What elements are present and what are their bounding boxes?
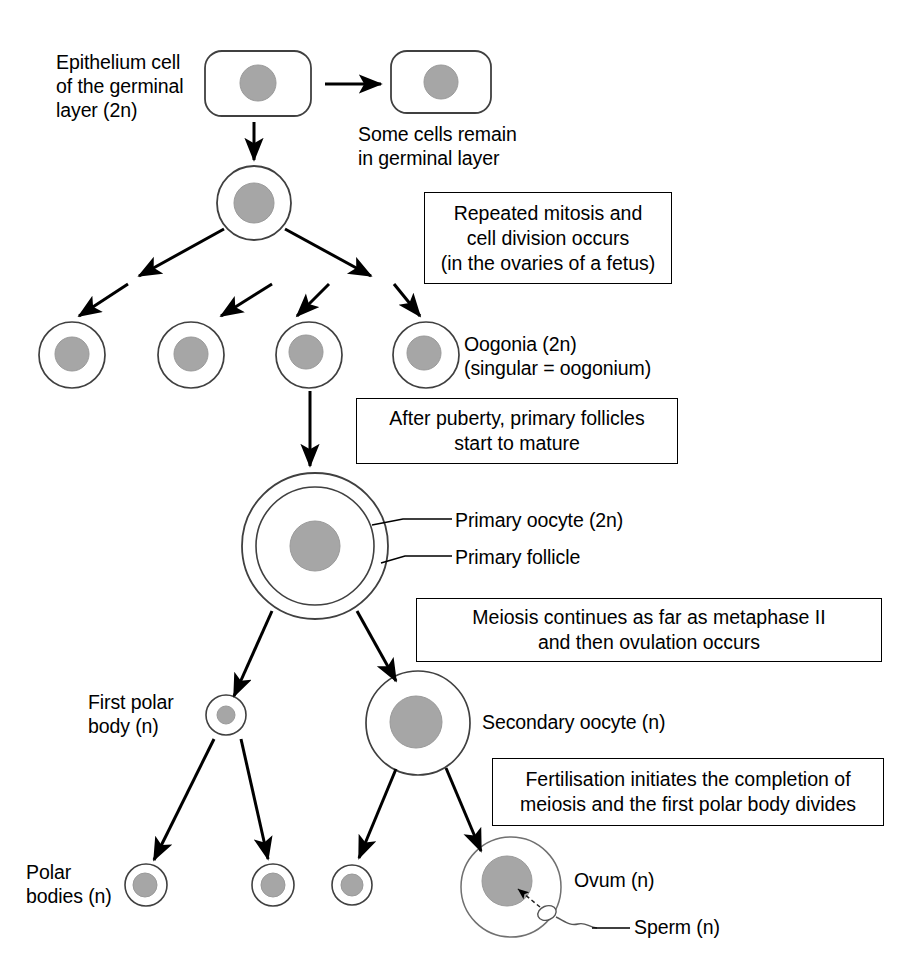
- nucleus: [234, 183, 274, 223]
- nucleus: [55, 337, 89, 371]
- cell-oogonium-4: [393, 322, 459, 388]
- nucleus: [290, 521, 340, 571]
- nucleus: [289, 335, 323, 369]
- label-primary-follicle: Primary follicle: [455, 545, 580, 569]
- nucleus: [174, 337, 208, 371]
- arrow-to-oogonium-1: [79, 284, 128, 316]
- cell-epithelium-left: [205, 51, 311, 116]
- cell-primary-oocyte: [242, 473, 388, 619]
- note-fertilisation: Fertilisation initiates the completion o…: [492, 758, 884, 826]
- note-meiosis-metaphase: Meiosis continues as far as metaphase II…: [416, 598, 882, 662]
- arrow-to-polar-body-3: [359, 769, 396, 858]
- label-epithelium-cell: Epithelium cell of the germinal layer (2…: [56, 50, 184, 122]
- nucleus: [407, 336, 441, 370]
- cell-oogonium-3: [276, 322, 342, 388]
- cell-first-polar-body: [206, 695, 246, 735]
- nucleus: [424, 65, 458, 99]
- note-repeated-mitosis: Repeated mitosis and cell division occur…: [424, 192, 672, 284]
- nucleus: [482, 856, 532, 906]
- arrow-stem-to-left: [139, 229, 224, 276]
- cell-ovum: [461, 837, 561, 937]
- label-oogonia: Oogonia (2n) (singular = oogonium): [464, 332, 651, 380]
- nucleus: [133, 873, 157, 897]
- arrow-to-polar-body-1: [154, 739, 214, 860]
- cell-polar-body-3: [332, 865, 372, 905]
- arrow-stem-to-right: [285, 229, 371, 276]
- cell-polar-body-1: [125, 864, 167, 906]
- label-some-cells-remain: Some cells remain in germinal layer: [358, 122, 517, 170]
- cell-polar-body-2: [252, 864, 294, 906]
- nucleus: [341, 874, 363, 896]
- cell-stem: [217, 166, 291, 240]
- nucleus: [240, 65, 276, 101]
- sperm-tail: [556, 917, 597, 928]
- leader-primary-follicle: [381, 556, 452, 563]
- label-first-polar-body: First polar body (n): [88, 690, 174, 738]
- arrow-to-oogonium-3: [297, 284, 329, 316]
- arrow-to-oogonium-2: [221, 284, 272, 316]
- arrow-to-secondary-oocyte: [357, 611, 396, 681]
- cell-oogonium-2: [158, 322, 224, 388]
- cell-oogonium-1: [39, 322, 105, 388]
- arrow-to-first-polar-body: [234, 611, 272, 696]
- nucleus: [217, 706, 235, 724]
- arrow-to-oogonium-4: [394, 284, 420, 316]
- label-secondary-oocyte: Secondary oocyte (n): [482, 710, 665, 734]
- arrow-to-polar-body-2: [241, 739, 268, 859]
- label-primary-oocyte: Primary oocyte (2n): [455, 508, 623, 532]
- nucleus: [390, 696, 442, 748]
- cell-secondary-oocyte: [366, 671, 470, 775]
- note-after-puberty: After puberty, primary follicles start t…: [356, 398, 678, 464]
- nucleus: [261, 873, 285, 897]
- oogenesis-diagram: Epithelium cell of the germinal layer (2…: [0, 0, 920, 954]
- arrow-to-ovum: [446, 768, 481, 851]
- cell-epithelium-right: [391, 51, 491, 113]
- label-ovum: Ovum (n): [574, 868, 654, 892]
- label-sperm: Sperm (n): [634, 915, 720, 939]
- label-polar-bodies: Polar bodies (n): [26, 860, 112, 908]
